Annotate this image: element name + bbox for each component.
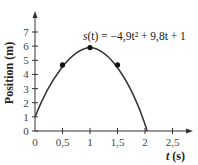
y-tick-5: 5 — [23, 54, 29, 66]
point-t-0-5 — [60, 62, 65, 67]
position-curve — [35, 48, 147, 131]
x-tick-2-5: 2,5 — [166, 136, 180, 148]
point-vertex — [87, 45, 92, 50]
x-axis-arrow-icon — [186, 129, 193, 134]
y-tick-2: 2 — [23, 97, 29, 109]
x-tick-1-5: 1,5 — [111, 136, 125, 148]
x-tick-1: 1 — [87, 136, 93, 148]
point-t-1-5 — [115, 62, 120, 67]
equation-label: s(t) = −4,9t² + 9,8t + 1 — [83, 30, 186, 43]
x-axis-title: t (s) — [166, 149, 185, 163]
x-tick-0-5: 0,5 — [56, 136, 70, 148]
y-tick-4: 4 — [23, 68, 29, 80]
y-tick-6: 6 — [23, 40, 29, 52]
x-tick-labels: 0 0,5 1 1,5 2 2,5 — [32, 136, 180, 148]
y-tick-labels: 0 1 2 3 4 5 6 7 — [23, 26, 29, 137]
y-tick-1: 1 — [23, 111, 29, 123]
y-tick-3: 3 — [23, 83, 29, 95]
y-axis-title: Position (m) — [2, 42, 16, 104]
x-tick-0: 0 — [32, 136, 38, 148]
y-axis-arrow-icon — [33, 11, 38, 18]
x-tick-2: 2 — [142, 136, 148, 148]
y-tick-7: 7 — [23, 26, 29, 38]
chart: 0 1 2 3 4 5 6 7 0 0,5 1 1,5 2 2,5 Positi… — [0, 0, 198, 165]
y-tick-0: 0 — [23, 125, 29, 137]
